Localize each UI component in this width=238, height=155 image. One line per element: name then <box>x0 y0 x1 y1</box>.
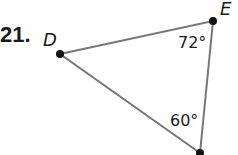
angle-f-label: 60° <box>170 111 198 130</box>
triangle-diagram: 21. D E 72° 60° <box>0 0 238 155</box>
angle-e-label: 72° <box>178 33 206 52</box>
problem-number: 21. <box>0 22 31 47</box>
vertex-e-label: E <box>220 0 232 19</box>
vertex-d-point <box>56 50 64 58</box>
vertex-d-label: D <box>43 29 57 50</box>
vertex-e-point <box>209 17 217 25</box>
triangle-figure: 21. D E 72° 60° <box>0 0 238 155</box>
